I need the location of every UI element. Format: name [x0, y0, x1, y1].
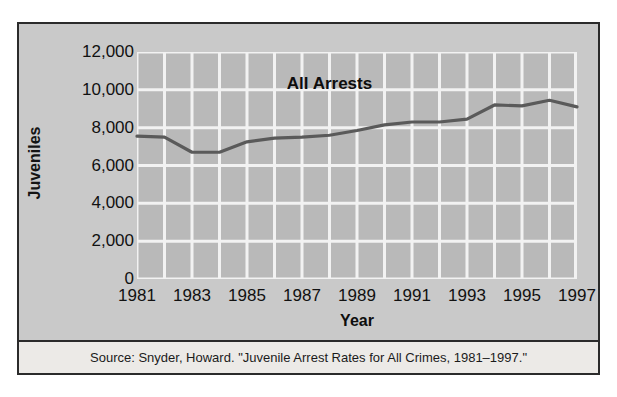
chart-figure: Juveniles 02,0004,0006,0008,00010,00012,…: [17, 22, 600, 375]
source-note: Source: Snyder, Howard. "Juvenile Arrest…: [90, 350, 527, 365]
chart-plot-area: Juveniles 02,0004,0006,0008,00010,00012,…: [19, 24, 598, 340]
y-axis-tick-label: 6,000: [29, 156, 134, 176]
x-axis-tick-label: 1989: [338, 286, 376, 306]
x-axis-tick-label: 1985: [228, 286, 266, 306]
x-axis-tick-label: 1987: [283, 286, 321, 306]
y-axis-tick-label: 10,000: [29, 80, 134, 100]
x-axis-tick-label: 1991: [393, 286, 431, 306]
x-axis-tick-label: 1983: [173, 286, 211, 306]
series-polyline: [137, 100, 577, 152]
x-axis-tick-label: 1995: [503, 286, 541, 306]
source-caption-bar: Source: Snyder, Howard. "Juvenile Arrest…: [19, 340, 598, 373]
x-axis-tick-label: 1981: [118, 286, 156, 306]
y-axis-tick-label: 2,000: [29, 231, 134, 251]
x-axis-tick-labels: 198119831985198719891991199319951997: [137, 286, 577, 310]
series-annotation-label: All Arrests: [287, 74, 372, 94]
x-axis-tick-label: 1993: [448, 286, 486, 306]
x-axis-title: Year: [137, 312, 577, 330]
y-axis-tick-label: 12,000: [29, 42, 134, 62]
y-axis-tick-label: 8,000: [29, 118, 134, 138]
x-axis-tick-label: 1997: [558, 286, 596, 306]
y-axis-tick-label: 4,000: [29, 193, 134, 213]
